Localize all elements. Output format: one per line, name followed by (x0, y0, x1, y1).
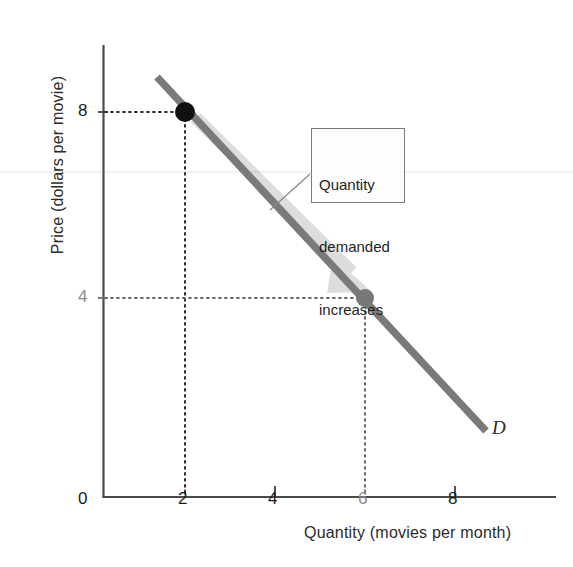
demand-curve-chart: Price (dollars per movie) Quantity (movi… (0, 0, 573, 567)
y-tick-label-4: 4 (78, 287, 87, 308)
x-tick-label-8: 8 (448, 489, 457, 510)
quantity-demanded-callout: Quantity demanded increases (311, 128, 405, 203)
x-tick-marks (185, 486, 455, 497)
x-tick-label-6: 6 (358, 489, 367, 510)
callout-line-1: Quantity (319, 175, 404, 196)
demand-curve-label: D (492, 416, 506, 439)
y-axis-title: Price (dollars per movie) (48, 40, 68, 290)
axis-origin-label: 0 (78, 489, 87, 510)
data-point-initial (175, 102, 195, 122)
x-axis-title: Quantity (movies per month) (304, 523, 511, 543)
callout-line-3: increases (319, 300, 404, 321)
y-tick-label-8: 8 (78, 101, 87, 122)
x-tick-label-4: 4 (268, 489, 277, 510)
scan-artifact (0, 171, 573, 173)
chart-canvas (0, 0, 573, 567)
callout-line-2: demanded (319, 237, 404, 258)
x-tick-label-2: 2 (178, 489, 187, 510)
